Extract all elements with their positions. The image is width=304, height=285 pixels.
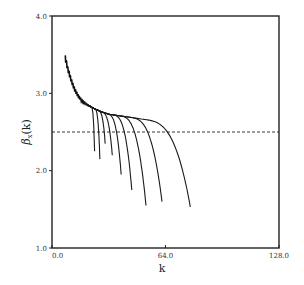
y-axis-label: βx(k) xyxy=(20,119,34,146)
y-axis-label-main: β xyxy=(20,138,33,145)
axis-ticks: 0.064.0128.01.02.03.04.0 xyxy=(36,13,289,261)
y-tick-label: 2.0 xyxy=(36,167,47,175)
svg-text:βx(k): βx(k) xyxy=(20,119,34,146)
x-tick-label: 0.0 xyxy=(52,252,63,260)
curves-group xyxy=(65,55,190,207)
series-curve-7 xyxy=(88,105,147,206)
series-curve-1 xyxy=(88,105,95,151)
x-axis-label: k xyxy=(159,262,166,275)
x-tick-label: 64.0 xyxy=(158,252,174,260)
y-tick-label: 1.0 xyxy=(36,245,47,253)
chart: 0.064.0128.01.02.03.04.0 k βx(k) xyxy=(0,0,304,285)
x-tick-label: 128.0 xyxy=(269,252,289,260)
y-tick-label: 4.0 xyxy=(36,13,47,21)
y-axis-label-arg: (k) xyxy=(20,119,33,134)
envelope-curve xyxy=(65,55,91,107)
series-curve-8 xyxy=(88,105,163,202)
y-tick-label: 3.0 xyxy=(36,90,47,98)
